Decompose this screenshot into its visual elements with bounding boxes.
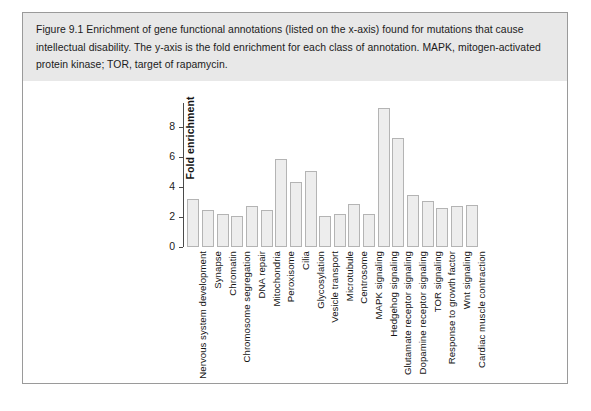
x-tick-label: Glycosylation (315, 251, 326, 309)
figure-caption: Figure 9.1 Enrichment of gene functional… (23, 13, 567, 81)
x-tick-label: Mitochondria (271, 251, 282, 307)
y-tick-mark (179, 127, 184, 128)
bar (217, 214, 229, 247)
y-tick-mark (179, 247, 184, 248)
bar (275, 159, 287, 247)
x-tick-label: Peroxisome (285, 251, 296, 302)
x-tick-label: DNA repair (256, 251, 267, 298)
y-tick-label: 6 (131, 150, 175, 162)
x-tick-label: Vesicle transport (329, 251, 340, 323)
x-tick-label: Glutamate receptor signaling (402, 251, 413, 375)
plot-area: Fold enrichment 02468 Nervous system dev… (23, 81, 567, 383)
y-tick-mark (179, 217, 184, 218)
x-tick-label: Dopamine receptor signaling (417, 251, 428, 374)
x-tick-label: Centrosome (358, 251, 369, 304)
y-tick-label: 0 (131, 240, 175, 252)
x-tick-label: Cilia (300, 251, 311, 270)
bar (187, 199, 199, 247)
bar (436, 208, 448, 247)
bar (466, 205, 478, 247)
y-tick-label: 8 (131, 120, 175, 132)
y-tick-label: 2 (131, 210, 175, 222)
figure-container: Figure 9.1 Enrichment of gene functional… (22, 12, 568, 384)
bar (348, 204, 360, 247)
x-tick-label: Response to growth factor (446, 251, 457, 364)
x-tick-label: MAPK signaling (373, 251, 384, 319)
x-tick-label: Cardiac muscle contraction (476, 251, 487, 368)
bar (305, 171, 317, 247)
bar (422, 201, 434, 248)
bar (319, 216, 331, 248)
x-tick-label: Hedgehog signaling (388, 251, 399, 337)
x-tick-label: Wnt signaling (461, 251, 472, 309)
bar (246, 206, 258, 247)
bar (451, 206, 463, 247)
x-tick-label: Nervous system development (197, 251, 208, 379)
y-tick-mark (179, 157, 184, 158)
x-tick-label: Chromosome segregation (241, 251, 252, 362)
bar (363, 214, 375, 247)
bar (261, 210, 273, 247)
bar (407, 195, 419, 247)
bar (290, 182, 302, 247)
bar (392, 138, 404, 248)
x-tick-label: Synapse (212, 251, 223, 289)
x-tick-label: Chromatin (227, 251, 238, 296)
y-axis-line (183, 103, 184, 247)
x-tick-label: Microtubule (344, 251, 355, 301)
bar (334, 214, 346, 247)
bar (231, 216, 243, 247)
y-tick-label: 4 (131, 180, 175, 192)
bar-chart: Fold enrichment 02468 Nervous system dev… (153, 103, 483, 383)
figure-caption-text: Figure 9.1 Enrichment of gene functional… (36, 21, 554, 74)
y-tick-mark (179, 187, 184, 188)
bar (202, 210, 214, 248)
bar (378, 108, 390, 247)
x-axis-labels: Nervous system developmentSynapseChromat… (186, 251, 479, 381)
bars-group (186, 103, 479, 247)
x-tick-label: TOR signaling (432, 251, 443, 312)
